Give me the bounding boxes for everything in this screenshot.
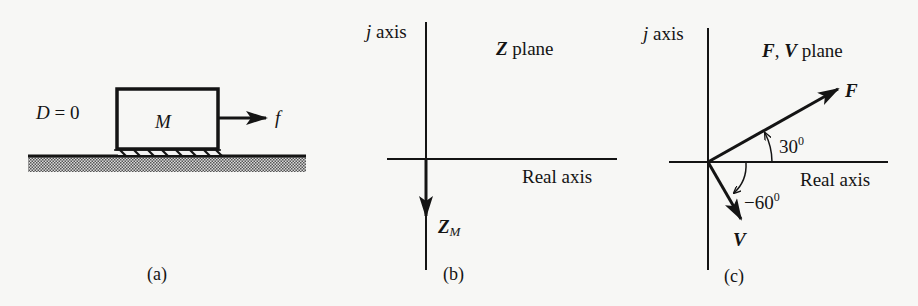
angle-arc-30 [765,133,772,162]
imag-axis-label-b: j axis [363,21,407,42]
angle-label-30: 300 [779,134,804,157]
real-axis-label-c: Real axis [800,169,870,190]
real-axis-label-b: Real axis [522,166,592,187]
z-plane-label: Z plane [495,38,554,59]
damping-label: D = 0 [35,102,79,123]
caption-c: (c) [724,266,744,287]
angle-arc-neg60 [734,163,746,193]
zm-vector-label: ZM [437,216,462,239]
fv-plane-label: F, V plane [761,40,843,61]
panel-b: j axis Z plane Real axis ZM (b) [363,21,617,285]
v-vector-label: V [733,229,747,250]
force-label: f [275,107,283,128]
caption-b: (b) [443,264,464,285]
imag-axis-label-c: j axis [640,23,684,44]
ground-shading [28,157,306,172]
angle-label-neg60: −600 [744,190,780,213]
figure-canvas: D = 0 M f (a) [0,0,918,306]
panel-c: j axis F, V plane Real axis F V 300 −600… [640,23,888,287]
caption-a: (a) [147,264,167,285]
f-vector-label: F [844,80,858,101]
mass-label: M [154,111,172,132]
panel-a: D = 0 M f (a) [28,89,306,285]
f-vector-arrow [708,89,838,162]
